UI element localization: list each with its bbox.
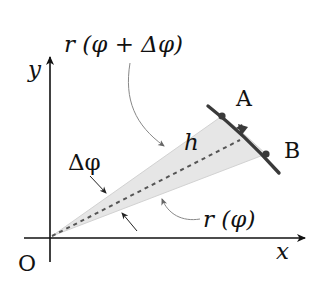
point-a-marker [218,112,225,119]
point-b-label: B [284,138,300,163]
r-phi-leader [162,199,200,220]
y-axis-label: y [27,56,42,82]
r-phi-plus-delta-label: r (φ + Δφ) [64,31,183,57]
delta-phi-arrow-upper [90,176,106,193]
height-label: h [184,129,199,155]
point-b-marker [262,150,269,157]
delta-phi-arrow-lower [122,213,137,231]
delta-phi-label: Δφ [68,149,101,175]
polar-sector-diagram: y x O A B h Δφ r (φ + Δφ) r (φ) [0,0,326,288]
origin-label: O [18,251,36,276]
point-a-label: A [235,86,253,111]
r-phi-plus-leader [128,63,164,146]
x-axis-label: x [276,238,289,264]
r-phi-label: r (φ) [203,206,255,232]
